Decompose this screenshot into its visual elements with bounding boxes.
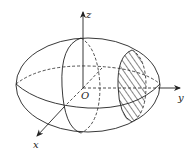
x-axis-label: x [33, 139, 39, 150]
origin-label: O [81, 90, 89, 101]
x-axis [37, 107, 64, 136]
z-axis-label: z [85, 9, 92, 20]
vertical-cross-section-back [81, 38, 100, 133]
y-axis-label: y [177, 92, 184, 103]
vertical-cross-section-front [62, 38, 81, 133]
ellipsoid-diagram: z y x O [0, 0, 193, 161]
